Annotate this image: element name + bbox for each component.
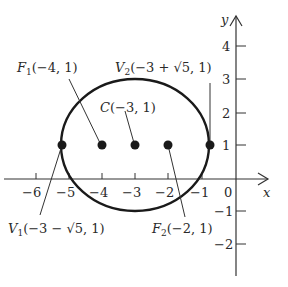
x-tick-label: −3 xyxy=(122,185,141,200)
point-f2 xyxy=(164,141,173,150)
x-tick-label: −2 xyxy=(155,185,174,200)
y-axis-label: y xyxy=(220,12,229,27)
point-v1 xyxy=(58,141,67,150)
y-tick-label: 1 xyxy=(222,138,230,153)
point-center xyxy=(131,141,140,150)
y-tick-label: −1 xyxy=(214,204,233,219)
label-v2: V2(−3 + √5, 1) xyxy=(115,60,212,77)
label-f2: F2(−2, 1) xyxy=(151,221,213,238)
x-tick-label: −6 xyxy=(22,185,41,200)
label-v1: V1(−3 − √5, 1) xyxy=(8,221,105,238)
x-tick-label: 0 xyxy=(224,185,232,200)
x-axis-label: x xyxy=(263,185,271,200)
point-v2 xyxy=(206,141,215,150)
y-tick-label: 2 xyxy=(222,106,230,121)
ellipse-diagram: x −6 −5 −4 −3 −2 −1 0 y 1 2 3 4 −1 −2 xyxy=(0,0,288,287)
points xyxy=(58,141,215,150)
y-axis: y 1 2 3 4 −1 −2 xyxy=(214,12,246,276)
y-tick-label: 3 xyxy=(222,72,230,87)
label-center: C(−3, 1) xyxy=(100,100,156,115)
y-tick-label: 4 xyxy=(222,39,230,54)
label-f1: F1(−4, 1) xyxy=(16,60,78,77)
y-tick-label: −2 xyxy=(214,237,233,252)
x-tick-label: −5 xyxy=(56,185,75,200)
point-f1 xyxy=(98,141,107,150)
x-axis: x −6 −5 −4 −3 −2 −1 0 xyxy=(4,173,271,200)
